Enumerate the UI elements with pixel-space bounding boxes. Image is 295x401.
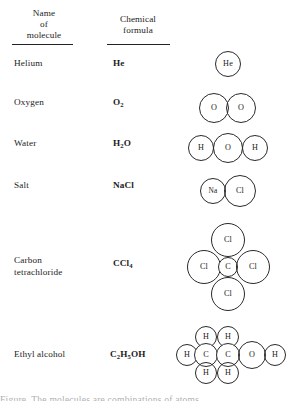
atom-h-bottom-right: H bbox=[217, 362, 239, 384]
row-name-oxygen: Oxygen bbox=[14, 97, 44, 109]
column-header-formula-line-2: formula bbox=[102, 25, 174, 36]
atom-h-left: H bbox=[188, 135, 214, 161]
atom-o-center: O bbox=[213, 133, 243, 163]
row-name-salt: Salt bbox=[14, 180, 29, 192]
row-formula-water: H2O bbox=[113, 138, 131, 150]
atom-he: He bbox=[215, 51, 241, 77]
atom-o: O bbox=[238, 341, 266, 369]
row-formula-oxygen: O2 bbox=[113, 97, 124, 109]
molecule-model-helium: He bbox=[176, 50, 295, 80]
atom-h-right: H bbox=[242, 135, 268, 161]
column-header-formula: Chemical formula bbox=[102, 14, 174, 36]
atom-cl: Cl bbox=[224, 175, 256, 207]
molecule-model-salt: Na Cl bbox=[176, 173, 295, 209]
molecule-model-carbon-tetrachloride: Cl Cl C Cl Cl bbox=[176, 221, 295, 316]
atom-na: Na bbox=[200, 178, 226, 204]
header-rule-name bbox=[12, 44, 73, 45]
row-name-line-1: Carbon bbox=[14, 255, 62, 267]
row-formula-carbon-tetrachloride: CCl4 bbox=[113, 258, 133, 270]
molecule-model-oxygen: O O bbox=[176, 91, 295, 125]
molecule-model-water: H O H bbox=[176, 131, 295, 165]
figure-caption: Figure. The molecules are combinations o… bbox=[0, 394, 295, 401]
atom-c-center: C bbox=[218, 257, 238, 277]
row-name-line-2: tetrachloride bbox=[14, 267, 62, 279]
row-name-helium: Helium bbox=[14, 58, 42, 70]
row-formula-ethyl-alcohol: C2H5OH bbox=[110, 349, 146, 361]
row-formula-salt: NaCl bbox=[113, 180, 134, 192]
header-rule-formula bbox=[107, 44, 170, 45]
atom-cl-left: Cl bbox=[187, 250, 221, 284]
atom-h-bottom-left: H bbox=[195, 362, 217, 384]
atom-cl-top: Cl bbox=[211, 223, 245, 257]
row-name-carbon-tetrachloride: Carbon tetrachloride bbox=[14, 255, 62, 278]
column-header-name-line-3: molecule bbox=[8, 30, 80, 41]
row-name-water: Water bbox=[14, 138, 36, 150]
row-name-ethyl-alcohol: Ethyl alcohol bbox=[14, 349, 65, 361]
column-header-formula-line-1: Chemical bbox=[102, 14, 174, 25]
atom-o-left: O bbox=[199, 93, 229, 123]
column-header-name: Name of molecule bbox=[8, 8, 80, 42]
row-formula-helium: He bbox=[113, 58, 125, 70]
atom-o-right: O bbox=[226, 93, 256, 123]
atom-h-far-right: H bbox=[264, 344, 286, 366]
column-header-name-line-2: of bbox=[8, 19, 80, 30]
molecule-model-ethyl-alcohol: H H H C C O H H H bbox=[176, 315, 295, 385]
atom-cl-right: Cl bbox=[236, 250, 270, 284]
column-header-name-line-1: Name bbox=[8, 8, 80, 19]
molecule-table: Name of molecule Chemical formula Helium… bbox=[0, 0, 295, 401]
atom-cl-bottom: Cl bbox=[211, 277, 245, 311]
